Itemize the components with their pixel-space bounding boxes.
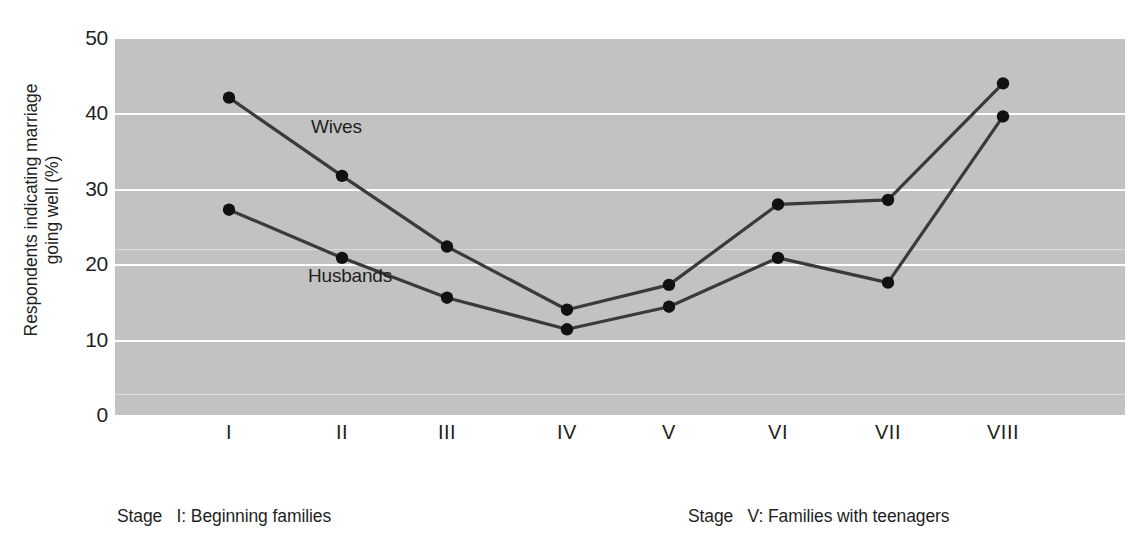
data-point [997, 110, 1009, 122]
markers-husbands [223, 110, 1009, 335]
y-axis-tick-group: 50 40 30 20 10 0 [48, 0, 108, 556]
data-point [663, 301, 675, 313]
y-tick-10: 10 [48, 329, 108, 350]
series-label-husbands: Husbands [308, 266, 392, 285]
x-tick-VIII: VIII [987, 415, 1019, 449]
data-point [561, 323, 573, 335]
legend-item: Stage I: Beginning families [117, 505, 456, 528]
x-axis-tick-group: I II III IV V VI VII VIII [115, 415, 1125, 455]
series-lines-svg [115, 39, 1125, 415]
data-point [663, 279, 675, 291]
x-tick-I: I [226, 415, 232, 449]
x-tick-VI: VI [768, 415, 788, 449]
x-tick-IV: IV [557, 415, 577, 449]
data-point [336, 170, 348, 182]
data-point [561, 304, 573, 316]
legend-item: Stage V: Families with teenagers [688, 505, 996, 528]
legend-right-column: Stage V: Families with teenagers Stage V… [688, 460, 996, 556]
data-point [223, 204, 235, 216]
data-point [441, 291, 453, 303]
data-point [772, 252, 784, 264]
y-tick-0: 0 [48, 404, 108, 425]
y-tick-30: 30 [48, 178, 108, 199]
y-tick-20: 20 [48, 253, 108, 274]
data-point [441, 240, 453, 252]
y-tick-40: 40 [48, 102, 108, 123]
x-tick-V: V [662, 415, 676, 449]
chart-figure: Respondents indicating marriage going we… [0, 0, 1140, 556]
data-point [223, 91, 235, 103]
series-label-wives: Wives [311, 117, 362, 136]
x-tick-III: III [438, 415, 456, 449]
data-point [772, 198, 784, 210]
data-point [997, 77, 1009, 89]
legend-left-column: Stage I: Beginning families Stage II: Ch… [117, 460, 456, 556]
data-point [336, 252, 348, 264]
data-point [882, 194, 894, 206]
x-tick-VII: VII [875, 415, 901, 449]
plot-area: Wives Husbands [115, 39, 1125, 415]
y-tick-50: 50 [48, 27, 108, 48]
x-tick-II: II [336, 415, 348, 449]
data-point [882, 276, 894, 288]
